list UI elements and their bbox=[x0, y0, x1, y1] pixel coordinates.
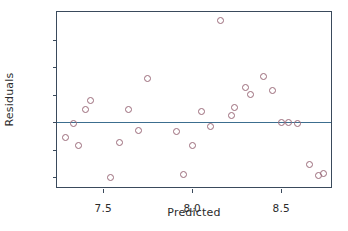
data-point bbox=[285, 119, 292, 126]
data-point bbox=[144, 75, 151, 82]
x-axis-tick bbox=[192, 189, 193, 193]
data-point bbox=[242, 84, 249, 91]
data-point bbox=[228, 112, 235, 119]
data-point bbox=[260, 73, 267, 80]
x-axis-title: Predicted bbox=[56, 206, 332, 219]
y-axis-title-text: Residuals bbox=[3, 73, 16, 127]
x-axis-tick bbox=[281, 189, 282, 193]
y-axis-tick bbox=[53, 67, 57, 68]
data-point bbox=[87, 97, 94, 104]
data-point bbox=[70, 120, 77, 127]
data-point bbox=[189, 142, 196, 149]
data-point bbox=[231, 104, 238, 111]
data-point bbox=[198, 108, 205, 115]
data-point bbox=[75, 142, 82, 149]
data-point bbox=[135, 127, 142, 134]
data-point bbox=[207, 123, 214, 130]
data-point bbox=[62, 134, 69, 141]
data-layer bbox=[57, 12, 331, 187]
y-axis-tick bbox=[53, 40, 57, 41]
data-point bbox=[247, 91, 254, 98]
data-point bbox=[217, 17, 224, 24]
y-axis-tick bbox=[53, 150, 57, 151]
data-point bbox=[180, 171, 187, 178]
data-point bbox=[116, 139, 123, 146]
y-axis-title: Residuals bbox=[2, 11, 16, 188]
plot-area: 7.58.08.50.60.40.20.0-0.2-0.4 bbox=[56, 11, 332, 188]
y-axis-tick bbox=[53, 122, 57, 123]
data-point bbox=[82, 106, 89, 113]
data-point bbox=[107, 174, 114, 181]
data-point bbox=[294, 120, 301, 127]
data-point bbox=[278, 119, 285, 126]
data-point bbox=[173, 128, 180, 135]
data-point bbox=[306, 161, 313, 168]
residual-plot-screenshot: Residuals 7.58.08.50.60.40.20.0-0.2-0.4 … bbox=[0, 0, 348, 231]
data-point bbox=[125, 106, 132, 113]
y-axis-tick bbox=[53, 95, 57, 96]
y-axis-tick bbox=[53, 177, 57, 178]
x-axis-tick bbox=[103, 189, 104, 193]
data-point bbox=[320, 170, 327, 177]
data-point bbox=[269, 87, 276, 94]
